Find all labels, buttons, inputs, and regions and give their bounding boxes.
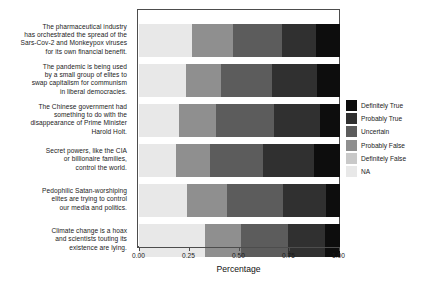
bar-segment bbox=[139, 24, 192, 57]
legend-label: Definitely True bbox=[361, 102, 403, 109]
bar-segment bbox=[227, 184, 282, 217]
bar-row bbox=[139, 24, 340, 57]
bar-segment bbox=[320, 104, 340, 137]
x-axis-tick bbox=[289, 248, 290, 251]
legend-item[interactable]: Definitely True bbox=[346, 99, 426, 112]
y-axis-label-line: The pandemic is being used bbox=[0, 63, 127, 71]
bar-segment bbox=[139, 104, 179, 137]
x-axis-tick-label: 0.25 bbox=[182, 252, 195, 259]
y-axis-label-line: and scientists touting its bbox=[0, 235, 127, 243]
y-axis-label-line: our media and politics. bbox=[0, 204, 127, 212]
y-axis-label-line: or billionaire families, bbox=[0, 155, 127, 163]
plot-panel bbox=[137, 9, 340, 247]
y-axis-label-line: something to do with the bbox=[0, 111, 127, 119]
legend-swatch bbox=[346, 140, 357, 151]
legend-label: NA bbox=[361, 168, 370, 175]
y-axis-label-line: elites are trying to control bbox=[0, 195, 127, 203]
bar-row bbox=[139, 104, 340, 137]
x-axis-tick-label: 0.00 bbox=[132, 252, 145, 259]
bar-segment bbox=[176, 144, 210, 177]
bar-segment bbox=[192, 24, 233, 57]
legend-item[interactable]: Probably True bbox=[346, 112, 426, 125]
bar-segment bbox=[272, 64, 317, 97]
y-axis-label-line: has orchestrated the spread of the bbox=[0, 31, 127, 39]
x-axis-title: Percentage bbox=[137, 264, 340, 274]
x-axis-tick bbox=[339, 248, 340, 251]
legend-swatch bbox=[346, 113, 357, 124]
bar-segment bbox=[241, 224, 288, 257]
y-axis-label-line: Harold Holt. bbox=[0, 128, 127, 136]
bar-segment bbox=[139, 64, 186, 97]
y-axis-label-line: Pedophilic Satan-worshiping bbox=[0, 187, 127, 195]
y-axis-label-line: The pharmaceutical industry bbox=[0, 23, 127, 31]
y-axis-label: Pedophilic Satan-worshipingelites are tr… bbox=[0, 187, 127, 212]
bar-segment bbox=[139, 144, 176, 177]
bar-row bbox=[139, 144, 340, 177]
bar-segment bbox=[139, 184, 187, 217]
legend-label: Definitely False bbox=[361, 155, 406, 162]
y-axis-label: The pandemic is being usedby a small gro… bbox=[0, 63, 127, 96]
legend-item[interactable]: NA bbox=[346, 165, 426, 178]
y-axis-label-line: The Chinese government had bbox=[0, 103, 127, 111]
bar-row bbox=[139, 184, 340, 217]
bar-segment bbox=[283, 184, 326, 217]
legend-swatch bbox=[346, 166, 357, 177]
legend-item[interactable]: Definitely False bbox=[346, 152, 426, 165]
bar-segment bbox=[316, 24, 340, 57]
bar-segment bbox=[139, 224, 205, 257]
y-axis-label-line: disappearance of Prime Minister bbox=[0, 119, 127, 127]
y-axis-label: Climate change is a hoaxand scientists t… bbox=[0, 227, 127, 252]
bar-row bbox=[139, 64, 340, 97]
y-axis-label-line: by a small group of elites to bbox=[0, 71, 127, 79]
bar-segment bbox=[326, 184, 340, 217]
legend-label: Probably True bbox=[361, 115, 402, 122]
legend-swatch bbox=[346, 126, 357, 137]
y-axis-label: The Chinese government hadsomething to d… bbox=[0, 103, 127, 136]
x-axis-tick-label: 0.50 bbox=[232, 252, 245, 259]
legend: Definitely TrueProbably TrueUncertainPro… bbox=[346, 99, 426, 178]
bar-segment bbox=[187, 184, 227, 217]
y-axis-label-line: for its own financial benefit. bbox=[0, 48, 127, 56]
legend-label: Probably False bbox=[361, 142, 405, 149]
y-axis-label-line: Secret powers, like the CIA bbox=[0, 147, 127, 155]
bar-segment bbox=[221, 64, 271, 97]
x-axis-tick bbox=[239, 248, 240, 251]
legend-item[interactable]: Probably False bbox=[346, 139, 426, 152]
bar-segment bbox=[216, 104, 273, 137]
legend-item[interactable]: Uncertain bbox=[346, 125, 426, 138]
legend-swatch bbox=[346, 100, 357, 111]
y-axis-label: Secret powers, like the CIAor billionair… bbox=[0, 147, 127, 172]
x-axis-tick-label: 1.00 bbox=[332, 252, 345, 259]
bar-segment bbox=[314, 144, 340, 177]
legend-swatch bbox=[346, 153, 357, 164]
chart-root: The pharmaceutical industryhas orchestra… bbox=[0, 0, 426, 287]
bar-segment bbox=[210, 144, 262, 177]
bar-segment bbox=[282, 24, 316, 57]
y-axis-label-line: swap capitalism for communism bbox=[0, 79, 127, 87]
x-axis-tick bbox=[189, 248, 190, 251]
y-axis-labels: The pharmaceutical industryhas orchestra… bbox=[0, 10, 133, 246]
x-axis-tick-label: 0.75 bbox=[282, 252, 295, 259]
x-axis-tick bbox=[139, 248, 140, 251]
legend-label: Uncertain bbox=[361, 128, 389, 135]
bar-segment bbox=[233, 24, 281, 57]
bar-segment bbox=[274, 104, 320, 137]
y-axis-label-line: in liberal democracies. bbox=[0, 88, 127, 96]
y-axis-label: The pharmaceutical industryhas orchestra… bbox=[0, 23, 127, 56]
bar-segment bbox=[186, 64, 221, 97]
y-axis-label-line: control the world. bbox=[0, 164, 127, 172]
bar-segment bbox=[317, 64, 340, 97]
bar-segment bbox=[179, 104, 216, 137]
y-axis-label-line: existence are lying. bbox=[0, 244, 127, 252]
bar-segment bbox=[263, 144, 314, 177]
y-axis-label-line: Climate change is a hoax bbox=[0, 227, 127, 235]
y-axis-label-line: Sars-Cov-2 and Monkeypox viruses bbox=[0, 39, 127, 47]
plot-area bbox=[138, 10, 339, 246]
